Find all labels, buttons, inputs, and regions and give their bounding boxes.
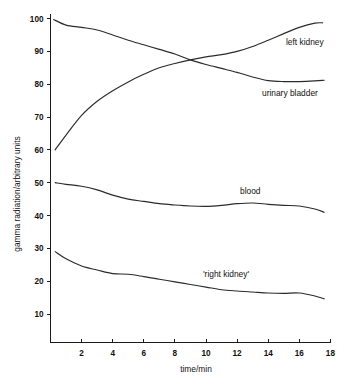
x-axis-ticks: 24681012141618 <box>79 339 335 358</box>
line-chart: 102030405060708090100 24681012141618 lef… <box>0 0 352 389</box>
x-tick-label: 8 <box>173 349 178 358</box>
y-tick-label: 90 <box>34 47 44 56</box>
y-tick-label: 80 <box>34 80 44 89</box>
x-tick-label: 12 <box>233 349 243 358</box>
series-label-blood: blood <box>240 186 261 196</box>
x-tick-label: 10 <box>201 349 211 358</box>
y-tick-label: 10 <box>34 310 44 319</box>
y-axis-title: gamma radiation/arbitrary units <box>12 136 22 251</box>
series-line-urinary-bladder <box>54 20 325 82</box>
y-tick-label: 70 <box>34 113 44 122</box>
chart-container: 102030405060708090100 24681012141618 lef… <box>0 0 352 389</box>
chart-series-lines <box>54 20 325 299</box>
x-axis-title: time/min <box>180 364 212 374</box>
x-tick-label: 14 <box>264 349 274 358</box>
x-tick-label: 18 <box>326 349 336 358</box>
x-tick-label: 6 <box>142 349 147 358</box>
y-tick-label: 40 <box>34 212 44 221</box>
x-tick-label: 2 <box>79 349 84 358</box>
series-line-right-kidney <box>55 252 324 299</box>
y-tick-label: 20 <box>34 277 44 286</box>
chart-series-labels: left kidneyurinary bladderblood'right ki… <box>203 37 325 279</box>
series-label-left-kidney: left kidney <box>286 37 325 47</box>
y-tick-label: 30 <box>34 244 44 253</box>
y-axis-ticks: 102030405060708090100 <box>30 15 51 319</box>
x-tick-label: 4 <box>110 349 115 358</box>
y-tick-label: 100 <box>30 15 44 24</box>
series-label-right-kidney: 'right kidney' <box>203 269 249 279</box>
x-tick-label: 16 <box>295 349 305 358</box>
series-label-urinary-bladder: urinary bladder <box>262 88 318 98</box>
series-line-blood <box>55 183 324 213</box>
series-line-left-kidney <box>55 23 322 150</box>
y-tick-label: 60 <box>34 146 44 155</box>
y-tick-label: 50 <box>34 179 44 188</box>
